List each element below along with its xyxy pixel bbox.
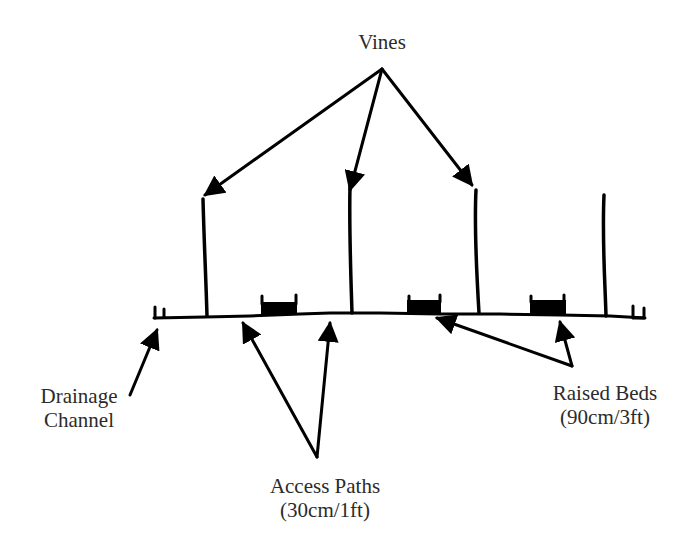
vineyard-diagram (0, 0, 700, 556)
drainage-channel-left (155, 307, 164, 318)
vine-3 (475, 190, 479, 313)
access-paths-arrows (243, 323, 330, 457)
ground-line (154, 313, 645, 318)
raised-bed-2 (407, 295, 441, 314)
drainage-channel-label: Drainage Channel (24, 384, 134, 432)
vines-label-text: Vines (358, 30, 406, 54)
access-paths-label: Access Paths (30cm/1ft) (255, 474, 395, 522)
raised-bed-3 (530, 295, 566, 314)
drainage-label-line2: Channel (24, 408, 134, 432)
drainage-arrow (130, 330, 157, 395)
raised-beds-arrows (437, 318, 572, 366)
vines-label: Vines (334, 30, 430, 54)
raised-bed-1 (261, 295, 297, 314)
vines-arrows (205, 69, 472, 195)
raised-beds-label: Raised Beds (90cm/3ft) (540, 381, 670, 429)
vine-1 (203, 199, 207, 316)
drainage-label-line1: Drainage (24, 384, 134, 408)
access-paths-label-line2: (30cm/1ft) (255, 498, 395, 522)
raised-beds-label-line2: (90cm/3ft) (540, 405, 670, 429)
access-paths-label-line1: Access Paths (255, 474, 395, 498)
vine-4 (603, 195, 606, 316)
vine-2 (350, 186, 352, 313)
raised-beds-label-line1: Raised Beds (540, 381, 670, 405)
